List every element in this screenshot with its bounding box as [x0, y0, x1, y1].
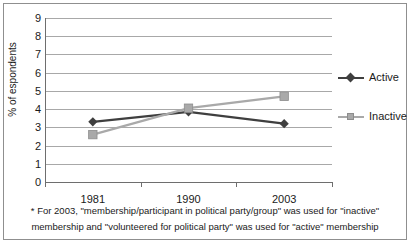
x-axis-line [45, 182, 333, 183]
y-axis-tick-labels: 9876543210 [0, 18, 41, 182]
gridline [45, 91, 332, 92]
gridline [45, 36, 332, 37]
y-tick-label: 0 [7, 177, 41, 188]
y-tick-label: 7 [7, 49, 41, 60]
gridline [45, 18, 332, 19]
x-tick-mark [332, 182, 333, 187]
x-tick-label: 1990 [159, 193, 219, 205]
chart-legend: Active Inactive [338, 72, 408, 150]
diamond-marker-icon [347, 74, 354, 81]
gridline [45, 109, 332, 110]
y-tick-label: 9 [7, 13, 41, 24]
chart-screenshot: % of espondents 9876543210 198119902003 … [0, 0, 410, 243]
x-tick-label: 1981 [63, 193, 123, 205]
footnote-line-2: membership and "volunteered for politica… [0, 221, 410, 232]
x-tick-label: 2003 [254, 193, 314, 205]
line-chart: % of espondents 9876543210 198119902003 … [0, 0, 410, 243]
y-tick-label: 5 [7, 86, 41, 97]
gridline [45, 164, 332, 165]
y-tick-label: 3 [7, 122, 41, 133]
y-tick-label: 4 [7, 104, 41, 115]
y-tick-label: 6 [7, 68, 41, 79]
legend-item-active: Active [338, 72, 408, 83]
legend-item-inactive: Inactive [338, 111, 408, 122]
gridline [45, 54, 332, 55]
square-marker-icon [347, 113, 354, 120]
gridline [45, 73, 332, 74]
gridline [45, 127, 332, 128]
legend-label-active: Active [369, 71, 399, 83]
y-tick-label: 2 [7, 141, 41, 152]
footnote-line-1: * For 2003, "membership/participant in p… [0, 205, 410, 216]
y-tick-label: 8 [7, 31, 41, 42]
x-tick-mark [45, 182, 46, 187]
legend-label-inactive: Inactive [369, 110, 407, 122]
plot-area [45, 18, 332, 182]
x-tick-mark [141, 182, 142, 187]
x-tick-mark [236, 182, 237, 187]
y-tick-label: 1 [7, 159, 41, 170]
y-axis-line [45, 18, 46, 183]
gridline [45, 146, 332, 147]
